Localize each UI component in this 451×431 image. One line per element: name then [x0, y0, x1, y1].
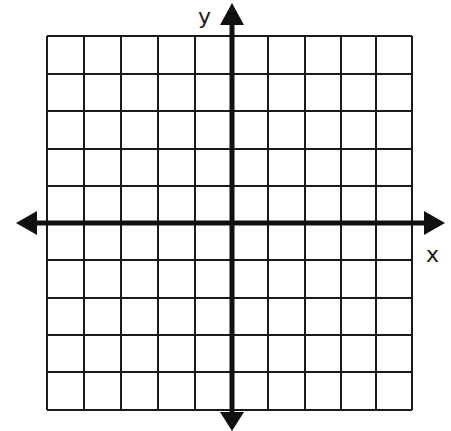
y-axis-down-arrow-icon [220, 412, 244, 431]
y-axis-up-arrow-icon [220, 3, 244, 25]
coordinate-plane: y x [0, 0, 451, 431]
x-axis-label: x [426, 242, 439, 267]
y-axis-label: y [198, 4, 211, 29]
x-axis-left-arrow-icon [16, 211, 37, 235]
x-axis-right-arrow-icon [424, 211, 445, 235]
y-axis [220, 3, 244, 431]
